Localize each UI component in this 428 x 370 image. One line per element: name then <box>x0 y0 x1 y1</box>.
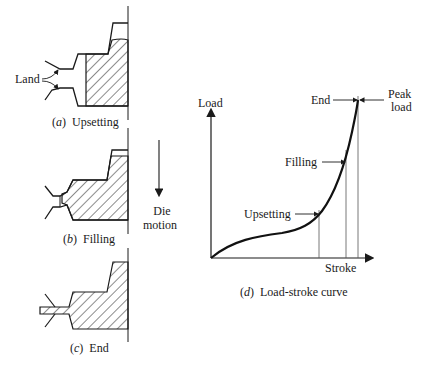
upsetting-annotation: Upsetting <box>244 208 291 221</box>
x-axis-label: Stroke <box>325 262 356 275</box>
peak-load-annotation-line2: load <box>391 101 412 114</box>
panel-a-upsetting <box>42 6 128 120</box>
caption-d: (d) Load-stroke curve <box>240 286 348 299</box>
caption-b: (b) Filling <box>63 233 115 246</box>
die-motion-label-line2: motion <box>138 219 182 232</box>
land-label: Land <box>15 73 40 86</box>
panel-c-end <box>40 248 128 342</box>
die-motion-label-line1: Die <box>142 205 182 218</box>
end-annotation: End <box>311 94 330 107</box>
caption-c: (c) End <box>70 342 109 355</box>
filling-annotation: Filling <box>285 156 317 169</box>
load-stroke-chart <box>211 96 384 258</box>
y-axis-label: Load <box>198 97 223 110</box>
forging-diagram <box>0 0 428 370</box>
caption-a: (a) Upsetting <box>52 116 119 129</box>
load-curve <box>211 100 358 258</box>
